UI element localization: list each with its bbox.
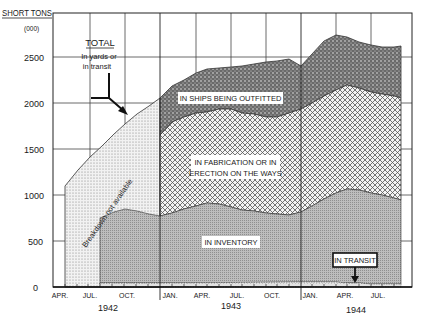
annotation-fabrication: IN FABRICATION OR IN ERECTION ON THE WAY… <box>189 155 281 179</box>
svg-text:JUL.: JUL. <box>371 292 385 299</box>
svg-text:JAN.: JAN. <box>162 292 177 299</box>
svg-text:APR.: APR. <box>337 292 353 299</box>
svg-text:IN INVENTORY: IN INVENTORY <box>204 238 257 247</box>
y-axis-title: SHORT TONS <box>2 7 52 18</box>
svg-text:in transit: in transit <box>83 62 112 71</box>
svg-text:500: 500 <box>28 237 43 247</box>
x-axis-year-labels: 1942 1943 1944 <box>98 301 366 315</box>
svg-text:2500: 2500 <box>24 53 44 63</box>
annotation-inventory: IN INVENTORY <box>202 236 260 248</box>
svg-text:0: 0 <box>33 283 38 293</box>
svg-text:OCT.: OCT. <box>264 292 280 299</box>
svg-text:JUL.: JUL. <box>83 292 97 299</box>
x-axis-month-labels: APR. JUL. OCT. JAN. APR. JUL. OCT. JAN. … <box>52 292 385 299</box>
stacked-area-chart: SHORT TONS (000) 2500 2000 1500 1000 500… <box>0 0 421 321</box>
svg-text:1944: 1944 <box>346 305 366 315</box>
svg-text:IN TRANSIT: IN TRANSIT <box>334 256 376 265</box>
svg-text:TOTAL: TOTAL <box>85 37 115 48</box>
svg-text:IN SHIPS BEING OUTFITTED: IN SHIPS BEING OUTFITTED <box>180 94 282 103</box>
y-axis-unit: (000) <box>24 25 39 33</box>
svg-text:1942: 1942 <box>98 303 118 313</box>
svg-text:JAN.: JAN. <box>302 292 317 299</box>
svg-text:OCT.: OCT. <box>119 292 135 299</box>
annotation-outfitted: IN SHIPS BEING OUTFITTED <box>178 92 283 104</box>
svg-text:ERECTION ON THE WAYS: ERECTION ON THE WAYS <box>189 169 281 178</box>
svg-text:2000: 2000 <box>24 99 44 109</box>
svg-text:JUL.: JUL. <box>230 292 244 299</box>
svg-text:In yards or: In yards or <box>81 52 117 61</box>
svg-text:APR.: APR. <box>52 292 68 299</box>
svg-text:APR.: APR. <box>194 292 210 299</box>
svg-text:1943: 1943 <box>221 301 241 311</box>
svg-text:IN FABRICATION OR IN: IN FABRICATION OR IN <box>195 158 277 167</box>
svg-text:1000: 1000 <box>24 191 44 201</box>
total-arrow-icon <box>91 73 124 111</box>
y-axis-tick-labels: 2500 2000 1500 1000 500 0 <box>24 53 44 293</box>
svg-text:1500: 1500 <box>24 145 44 155</box>
